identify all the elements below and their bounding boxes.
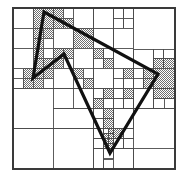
quadtree-canvas xyxy=(0,0,188,179)
quadtree-cell-empty xyxy=(43,48,53,58)
quadtree-cell-empty xyxy=(73,8,93,28)
quadtree-cell-empty xyxy=(94,58,104,68)
quadtree-cell-empty xyxy=(104,159,114,169)
quadtree-cell-empty xyxy=(83,68,93,78)
quadtree-cell-empty xyxy=(53,28,73,48)
quadtree-cell-empty xyxy=(94,89,104,99)
quadtree-cell-boundary xyxy=(164,59,175,69)
quadtree-cell-boundary xyxy=(83,78,93,88)
quadtree-cell-boundary xyxy=(104,109,114,119)
quadtree-cell-empty xyxy=(124,18,134,28)
quadtree-cell-empty xyxy=(114,89,124,99)
quadtree-cell-empty xyxy=(94,149,104,169)
quadtree-cell-empty xyxy=(13,89,53,129)
quadtree-cell-boundary xyxy=(33,78,43,88)
quadtree-cell-empty xyxy=(154,49,164,59)
quadtree-cell-empty xyxy=(13,68,23,78)
quadtree-cell-empty xyxy=(94,8,114,28)
quadtree-cell-boundary xyxy=(94,48,104,58)
quadtree-cell-boundary xyxy=(109,139,114,144)
quadtree-cell-boundary xyxy=(154,59,164,69)
quadtree-cell-empty xyxy=(104,99,114,109)
quadtree-cell-boundary xyxy=(124,68,134,78)
quadtree-cell-empty xyxy=(43,38,53,48)
quadtree-cell-empty xyxy=(13,129,53,169)
quadtree-cell-empty xyxy=(164,99,175,109)
quadtree-cell-empty xyxy=(114,68,124,78)
quadtree-cell-empty xyxy=(134,68,144,78)
quadtree-cell-empty xyxy=(124,8,134,18)
quadtree-cell-empty xyxy=(53,129,93,169)
quadtree-cell-boundary xyxy=(124,89,134,99)
quadtree-figure xyxy=(0,0,188,179)
quadtree-cell-boundary xyxy=(94,99,104,109)
quadtree-cell-empty xyxy=(134,8,175,49)
quadtree-cell-empty xyxy=(124,78,134,88)
quadtree-cell-boundary xyxy=(104,119,114,129)
quadtree-cell-empty xyxy=(53,89,73,109)
quadtree-cell-empty xyxy=(43,78,53,88)
quadtree-cell-boundary xyxy=(109,134,114,139)
quadtree-cell-empty xyxy=(13,28,33,48)
quadtree-cell-boundary xyxy=(154,89,175,99)
quadtree-cell-empty xyxy=(134,149,175,169)
quadtree-cell-empty xyxy=(134,109,175,150)
quadtree-cell-boundary xyxy=(104,58,114,68)
quadtree-cell-empty xyxy=(114,8,124,18)
quadtree-cell-empty xyxy=(164,49,175,59)
quadtree-cell-empty xyxy=(13,78,23,88)
quadtree-cell-empty xyxy=(13,8,33,28)
quadtree-cell-empty xyxy=(124,99,134,109)
quadtree-cell-empty xyxy=(63,8,73,18)
quadtree-cell-boundary xyxy=(104,89,114,99)
quadtree-cell-empty xyxy=(114,18,124,28)
quadtree-cell-empty xyxy=(94,139,104,149)
quadtree-cell-empty xyxy=(13,48,33,68)
quadtree-cell-empty xyxy=(94,68,114,88)
quadtree-cell-empty xyxy=(104,129,109,134)
quadtree-cell-empty xyxy=(73,48,93,68)
quadtree-cell-empty xyxy=(53,109,93,129)
quadtree-cell-empty xyxy=(124,139,134,149)
quadtree-cell-empty xyxy=(114,149,134,169)
quadtree-cell-boundary xyxy=(109,129,114,134)
quadtree-cell-boundary xyxy=(43,28,53,38)
quadtree-cell-empty xyxy=(114,78,124,88)
quadtree-cell-empty xyxy=(154,99,165,109)
quadtree-cell-empty xyxy=(114,99,124,109)
quadtree-cell-empty xyxy=(134,78,144,88)
quadtree-cell-empty xyxy=(114,28,134,48)
